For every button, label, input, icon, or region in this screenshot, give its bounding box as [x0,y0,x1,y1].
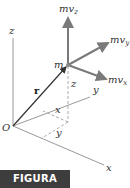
origin-label: O [2,122,10,133]
momentum-diagram: z y x O m r z x y mvz mvy mvx [0,0,130,188]
particle-m [66,63,70,67]
mvz-label: mvz [59,3,78,16]
y-axis-label: y [92,84,99,95]
mvy-label: mvy [110,34,130,47]
figure-caption: FIGURA 3/15 [0,170,70,188]
mvx-label: mvx [108,74,127,87]
y-axis [13,97,90,126]
y-projection-line [42,122,68,138]
z-axis-label: z [8,25,15,36]
mvx-arrow [68,65,106,79]
r-vector-label: r [34,85,40,96]
x-axis-label: x [106,162,112,173]
mvy-arrow [68,43,108,65]
z-projection-label: z [70,78,77,89]
x-projection-label: x [55,104,61,115]
point-m-label: m [54,59,63,70]
y-projection-label: y [55,127,62,138]
